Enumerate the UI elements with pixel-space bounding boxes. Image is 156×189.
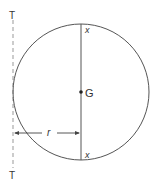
centroid-label: G: [85, 87, 94, 99]
axis-label-bottom: T: [9, 170, 15, 181]
diagram-canvas: T T G x x r: [0, 0, 156, 189]
centroid-point: [79, 90, 83, 94]
radius-label: r: [47, 127, 51, 138]
diameter-label-top: x: [84, 25, 90, 35]
diameter-label-bottom: x: [84, 150, 90, 160]
arrowhead-left-icon: [14, 131, 19, 135]
arrowhead-right-icon: [75, 131, 80, 135]
axis-label-top: T: [9, 10, 15, 21]
